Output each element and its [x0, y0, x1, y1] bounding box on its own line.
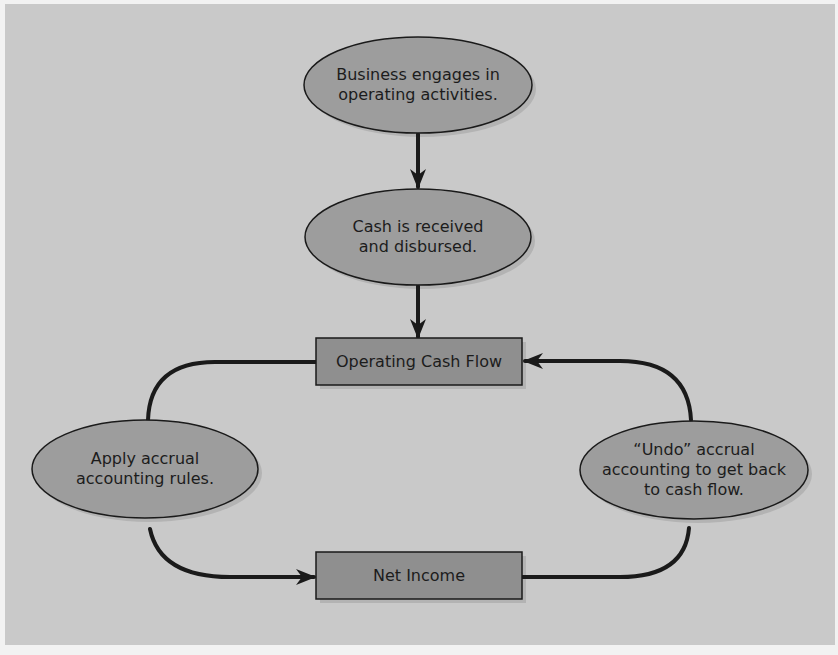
node-undo-accrual	[580, 421, 808, 519]
node-operating-activities	[304, 37, 532, 133]
node-cash-received	[305, 189, 531, 285]
edge-net-income-to-undo-accrual	[522, 528, 689, 577]
edge-undo-accrual-to-operating-cash-flow	[525, 361, 691, 420]
node-net-income	[316, 552, 522, 599]
edge-operating-cash-flow-to-apply-accrual	[148, 362, 316, 420]
edge-apply-accrual-to-net-income	[150, 529, 314, 577]
node-apply-accrual	[32, 420, 258, 518]
node-operating-cash-flow	[316, 338, 522, 385]
flowchart-canvas	[0, 0, 838, 655]
